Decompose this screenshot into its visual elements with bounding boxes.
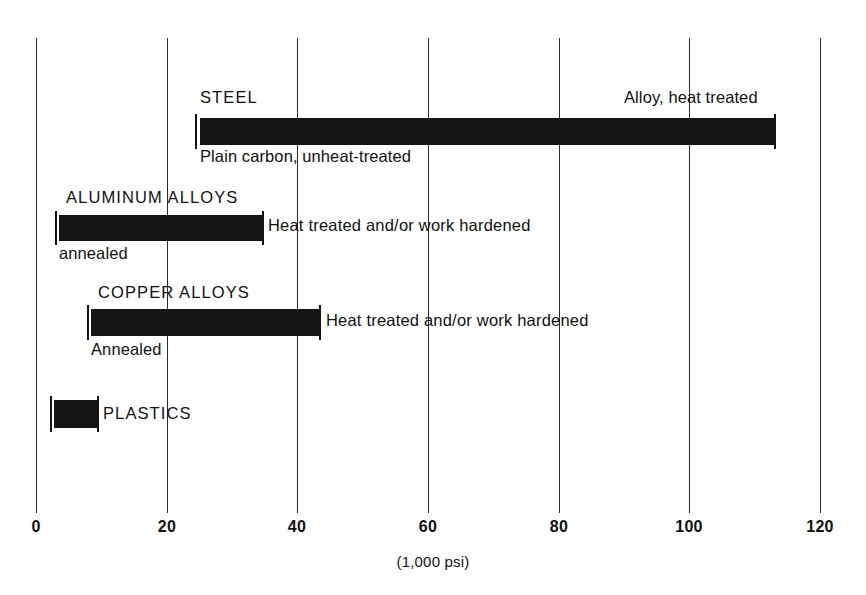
bar-steel [200, 118, 775, 145]
range-label-aluminum-high: Heat treated and/or work hardened [268, 216, 531, 235]
bar-cap-plastics-right [97, 396, 99, 432]
gridline-80 [559, 38, 560, 513]
gridline-120 [820, 38, 821, 513]
gridline-0 [36, 38, 37, 513]
bar-cap-copper-right [319, 305, 321, 340]
gridline-100 [689, 38, 690, 513]
plot-area: 0 20 40 60 80 100 120 (1,000 psi) STEEL … [0, 0, 866, 595]
x-axis-title: (1,000 psi) [0, 553, 866, 570]
range-label-aluminum-low: annealed [59, 244, 128, 263]
bar-plastics [54, 400, 98, 428]
series-label-steel: STEEL [200, 88, 258, 107]
x-tick-label-20: 20 [158, 518, 176, 536]
range-label-steel-high: Alloy, heat treated [624, 88, 758, 107]
bar-cap-aluminum-right [262, 211, 264, 245]
bar-aluminum [59, 215, 263, 241]
tensile-strength-bar-chart: 0 20 40 60 80 100 120 (1,000 psi) STEEL … [0, 0, 866, 595]
gridline-40 [297, 38, 298, 513]
x-tick-label-0: 0 [31, 518, 40, 536]
x-tick-label-120: 120 [806, 518, 834, 536]
bar-cap-aluminum-left [55, 211, 57, 245]
range-label-copper-low: Annealed [91, 340, 162, 359]
bar-cap-plastics-left [50, 396, 52, 432]
gridline-20 [167, 38, 168, 513]
x-tick-label-60: 60 [419, 518, 437, 536]
gridline-60 [428, 38, 429, 513]
range-label-steel-low: Plain carbon, unheat-treated [200, 147, 411, 166]
x-tick-label-80: 80 [550, 518, 568, 536]
bar-cap-copper-left [87, 305, 89, 340]
x-tick-label-40: 40 [288, 518, 306, 536]
range-label-copper-high: Heat treated and/or work hardened [326, 311, 589, 330]
series-label-plastics: PLASTICS [103, 404, 192, 423]
series-label-copper: COPPER ALLOYS [98, 283, 250, 302]
bar-cap-steel-left [195, 114, 197, 149]
series-label-aluminum: ALUMINUM ALLOYS [66, 188, 238, 207]
bar-copper [91, 309, 320, 336]
bar-cap-steel-right [774, 114, 776, 149]
x-tick-label-100: 100 [675, 518, 703, 536]
